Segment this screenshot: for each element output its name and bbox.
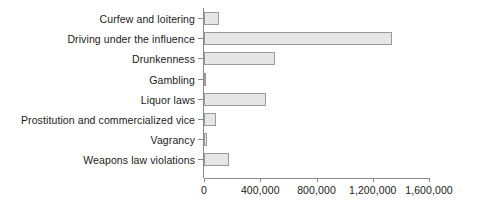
y-axis-tick bbox=[198, 139, 203, 140]
category-label: Driving under the influence bbox=[67, 29, 195, 49]
x-axis-tick-label: 0 bbox=[201, 184, 207, 196]
category-label: Vagrancy bbox=[151, 130, 195, 150]
bar-row: Vagrancy bbox=[0, 130, 477, 150]
bar-chart: Curfew and loiteringDriving under the in… bbox=[0, 0, 477, 205]
category-label: Gambling bbox=[149, 70, 195, 90]
category-label: Weapons law violations bbox=[83, 150, 195, 170]
bar-row: Liquor laws bbox=[0, 90, 477, 110]
bar bbox=[204, 133, 207, 146]
bar-row: Gambling bbox=[0, 70, 477, 90]
y-axis-tick bbox=[198, 119, 203, 120]
x-axis-tick-label: 1,600,000 bbox=[405, 184, 453, 196]
bar-row: Curfew and loitering bbox=[0, 9, 477, 29]
y-axis-tick bbox=[198, 38, 203, 39]
x-axis-tick-label: 800,000 bbox=[297, 184, 336, 196]
x-axis-tick-label: 1,200,000 bbox=[349, 184, 397, 196]
bar bbox=[204, 52, 275, 65]
bar bbox=[204, 12, 219, 25]
bar bbox=[204, 93, 266, 106]
category-label: Prostitution and commercialized vice bbox=[21, 110, 195, 130]
x-axis-tick bbox=[373, 178, 374, 182]
y-axis-tick bbox=[198, 99, 203, 100]
y-axis-tick bbox=[198, 18, 203, 19]
bar bbox=[204, 113, 216, 126]
x-axis-tick bbox=[429, 178, 430, 182]
bar-row: Driving under the influence bbox=[0, 29, 477, 49]
x-axis-tick bbox=[317, 178, 318, 182]
y-axis-tick bbox=[198, 79, 203, 80]
y-axis-tick bbox=[198, 159, 203, 160]
bar-row: Drunkenness bbox=[0, 49, 477, 69]
x-axis-tick bbox=[204, 178, 205, 182]
bar bbox=[204, 153, 229, 166]
category-label: Curfew and loitering bbox=[100, 9, 195, 29]
category-label: Liquor laws bbox=[141, 90, 195, 110]
category-label: Drunkenness bbox=[132, 49, 195, 69]
bar-row: Weapons law violations bbox=[0, 150, 477, 170]
bar bbox=[204, 73, 206, 86]
bar bbox=[204, 32, 392, 45]
bar-row: Prostitution and commercialized vice bbox=[0, 110, 477, 130]
x-axis-tick bbox=[260, 178, 261, 182]
plot-area: Curfew and loiteringDriving under the in… bbox=[0, 0, 477, 205]
y-axis-tick bbox=[198, 58, 203, 59]
x-axis-tick-label: 400,000 bbox=[241, 184, 280, 196]
